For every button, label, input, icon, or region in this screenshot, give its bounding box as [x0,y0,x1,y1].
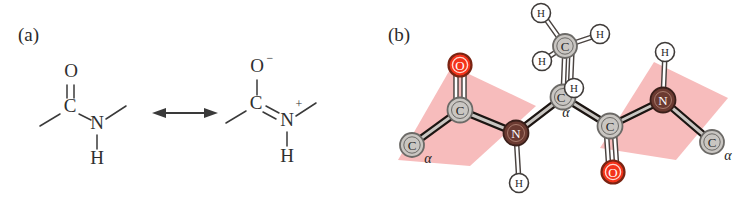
panel-b-diagram: H H H C O C [372,0,744,199]
atom-carbon-left: C [64,95,77,116]
methyl-bond-left [40,114,60,126]
amide-neutral-structure: O C N H [40,60,126,168]
svg-text:H: H [661,46,669,58]
svg-text:H: H [596,28,604,40]
atom-carbon-right: C [250,92,263,113]
c-alpha-left: C [400,133,424,157]
amide-hydrogen-2: H [656,43,675,62]
svg-text:N: N [511,126,521,141]
atom-nitrogen-left: N [90,112,104,133]
methyl-hydrogen-2: H [591,25,610,44]
atom-nitrogen-right: N [280,109,294,130]
atom-oxygen-left: O [64,60,78,81]
svg-text:C: C [606,119,615,134]
c-alpha-left-subscript: α [424,151,432,166]
nitrogen-positive-charge: + [296,97,303,111]
atom-hydrogen-right: H [280,145,294,166]
carbonyl-oxygen-2: O [602,161,625,184]
svg-text:N: N [658,93,668,108]
panel-a-diagram: O C N H O − C [0,0,372,199]
c-alpha-hydrogen: H [565,79,584,98]
methyl-bond-left-2 [226,111,246,123]
carbonyl-oxygen-1: O [449,54,472,77]
resonance-arrow [152,108,218,118]
svg-text:H: H [537,7,545,19]
svg-text:C: C [408,138,417,153]
carbonyl-carbon-2: C [598,114,623,139]
svg-text:O: O [608,165,617,180]
svg-text:H: H [515,177,523,189]
atom-hydrogen-left: H [90,147,104,168]
amide-nitrogen-1: N [504,121,529,146]
amide-nitrogen-2: N [651,88,676,113]
svg-text:O: O [455,58,464,73]
methyl-bond-right [106,106,126,119]
c-n-double-bond [263,106,279,119]
methyl-hydrogen-3: H [533,52,552,71]
svg-text:C: C [708,135,717,150]
oxygen-negative-charge: − [267,51,274,65]
svg-text:C: C [557,90,566,105]
amide-charge-separated-structure: O − C N + H [226,51,316,166]
methyl-hydrogen-1: H [532,4,551,23]
c-alpha-right-subscript: α [724,148,732,163]
svg-text:H: H [570,82,578,94]
svg-text:C: C [456,103,465,118]
c-alpha-center-subscript: α [562,105,570,120]
peptide-bond-resonance-figure: (a) (b) O C N H [0,0,744,199]
svg-text:C: C [561,39,570,54]
carbonyl-carbon-1: C [448,98,473,123]
svg-text:H: H [538,55,546,67]
atom-oxygen-right: O [250,55,264,76]
amide-hydrogen-1: H [510,174,529,193]
c-alpha-right: C [700,130,724,154]
methyl-carbon: C [553,34,577,58]
